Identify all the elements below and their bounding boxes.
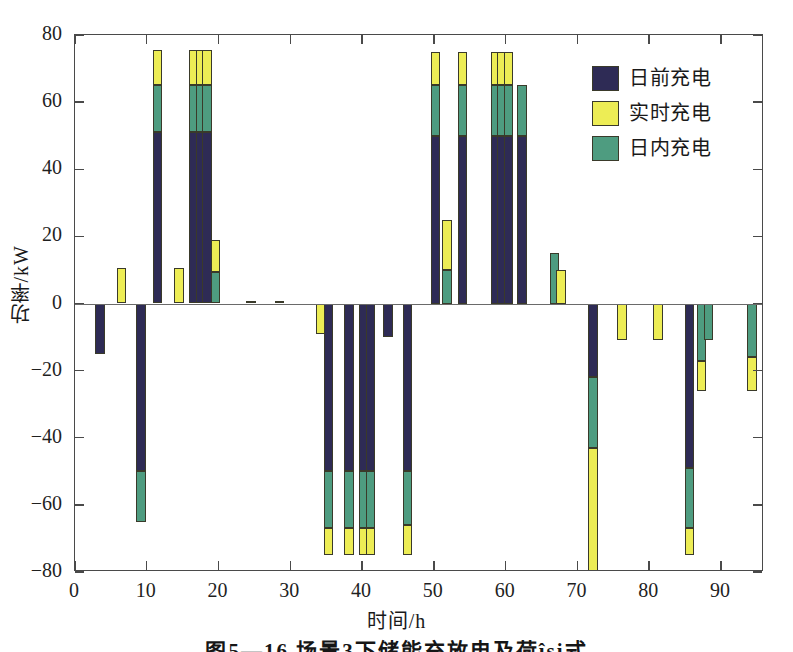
- segment-realtime: [174, 268, 184, 303]
- y-tick-mark: [753, 504, 762, 505]
- y-tick-mark: [753, 571, 762, 572]
- y-tick-mark: [75, 437, 84, 438]
- y-tick-mark: [753, 303, 762, 304]
- x-tick-mark: [218, 561, 219, 570]
- x-tick-mark: [146, 35, 147, 44]
- legend-swatch-day-ahead: [592, 66, 619, 91]
- segment-realtime: [431, 52, 441, 86]
- y-tick-label: 0: [0, 292, 62, 312]
- segment-realtime: [117, 268, 127, 303]
- bar-stack: [431, 35, 441, 570]
- y-tick-mark: [753, 437, 762, 438]
- segment-realtime: [588, 448, 598, 570]
- segment-day-ahead: [383, 304, 393, 338]
- segment-day-ahead: [588, 304, 598, 378]
- segment-realtime: [153, 50, 163, 85]
- y-tick-label: 40: [0, 157, 62, 177]
- segment-day-ahead: [403, 304, 413, 472]
- bar-stack: [95, 35, 105, 570]
- segment-realtime: [211, 240, 221, 272]
- x-tick-mark: [505, 35, 506, 44]
- figure-caption: 图5—16 场景3下储能充放电及荷își式: [0, 634, 793, 652]
- bar-stack: [246, 35, 256, 570]
- y-axis-title: 功率/kW: [10, 245, 40, 324]
- segment-intraday: [704, 304, 714, 341]
- y-tick-label: 60: [0, 90, 62, 110]
- x-tick-label: 50: [403, 580, 463, 600]
- x-tick-mark: [290, 35, 291, 44]
- x-tick-mark: [74, 35, 75, 44]
- x-tick-mark: [648, 35, 649, 44]
- y-tick-label: −60: [0, 493, 62, 513]
- x-tick-label: 30: [259, 580, 319, 600]
- bar-stack: [403, 35, 413, 570]
- y-tick-mark: [75, 34, 84, 35]
- x-tick-mark: [433, 561, 434, 570]
- x-tick-mark: [290, 561, 291, 570]
- legend-swatch-intraday: [592, 136, 619, 161]
- zero-reference-line: [75, 304, 762, 305]
- segment-day-ahead: [136, 304, 146, 472]
- segment-realtime: [344, 528, 354, 555]
- segment-intraday: [324, 471, 334, 528]
- bar-stack: [366, 35, 376, 570]
- segment-intraday: [442, 270, 452, 304]
- legend-label: 日内充电: [629, 137, 711, 159]
- y-tick-mark: [75, 169, 84, 170]
- bar-stack: [153, 35, 163, 570]
- legend: 日前充电 实时充电 日内充电: [592, 62, 762, 167]
- y-tick-mark: [75, 236, 84, 237]
- y-tick-label: −40: [0, 426, 62, 446]
- x-tick-mark: [433, 35, 434, 44]
- x-axis-title: 时间/h: [0, 605, 793, 634]
- segment-intraday: [431, 85, 441, 135]
- bar-stack: [211, 35, 221, 570]
- x-tick-mark: [577, 561, 578, 570]
- segment-day-ahead: [366, 304, 376, 472]
- segment-intraday: [136, 471, 146, 521]
- x-tick-label: 60: [475, 580, 535, 600]
- segment-day-ahead: [324, 304, 334, 472]
- bar-stack: [458, 35, 468, 570]
- x-tick-mark: [648, 561, 649, 570]
- x-tick-mark: [361, 35, 362, 44]
- y-tick-mark: [753, 169, 762, 170]
- y-tick-mark: [75, 303, 84, 304]
- segment-intraday: [366, 471, 376, 528]
- segment-intraday: [211, 272, 221, 304]
- legend-item[interactable]: 日前充电: [592, 62, 762, 94]
- x-tick-mark: [74, 561, 75, 570]
- figure-container: 功率/kW 806040200−20−40−60−80 010203040506…: [0, 0, 793, 652]
- x-tick-label: 10: [116, 580, 176, 600]
- segment-day-ahead: [685, 304, 695, 468]
- legend-item[interactable]: 实时充电: [592, 97, 762, 129]
- x-tick-label: 70: [546, 580, 606, 600]
- y-tick-mark: [753, 370, 762, 371]
- x-tick-label: 80: [618, 580, 678, 600]
- y-tick-label: 20: [0, 224, 62, 244]
- segment-intraday: [685, 468, 695, 528]
- segment-day-ahead: [153, 132, 163, 303]
- legend-item[interactable]: 日内充电: [592, 132, 762, 164]
- y-tick-label: −80: [0, 560, 62, 580]
- bar-stack: [504, 35, 514, 570]
- segment-realtime: [504, 52, 514, 86]
- bar-stack: [383, 35, 393, 570]
- bar-stack: [442, 35, 452, 570]
- y-tick-mark: [75, 504, 84, 505]
- x-tick-label: 0: [44, 580, 104, 600]
- x-tick-mark: [720, 561, 721, 570]
- y-tick-mark: [753, 236, 762, 237]
- segment-day-ahead: [504, 136, 514, 304]
- segment-realtime: [653, 304, 663, 341]
- bar-stack: [324, 35, 334, 570]
- legend-label: 日前充电: [629, 67, 711, 89]
- segment-intraday: [747, 304, 757, 358]
- y-tick-mark: [75, 101, 84, 102]
- segment-intraday: [517, 85, 527, 135]
- segment-day-ahead: [517, 136, 527, 304]
- segment-realtime: [442, 220, 452, 270]
- y-tick-mark: [75, 571, 84, 572]
- segment-realtime: [617, 304, 627, 341]
- x-tick-mark: [218, 35, 219, 44]
